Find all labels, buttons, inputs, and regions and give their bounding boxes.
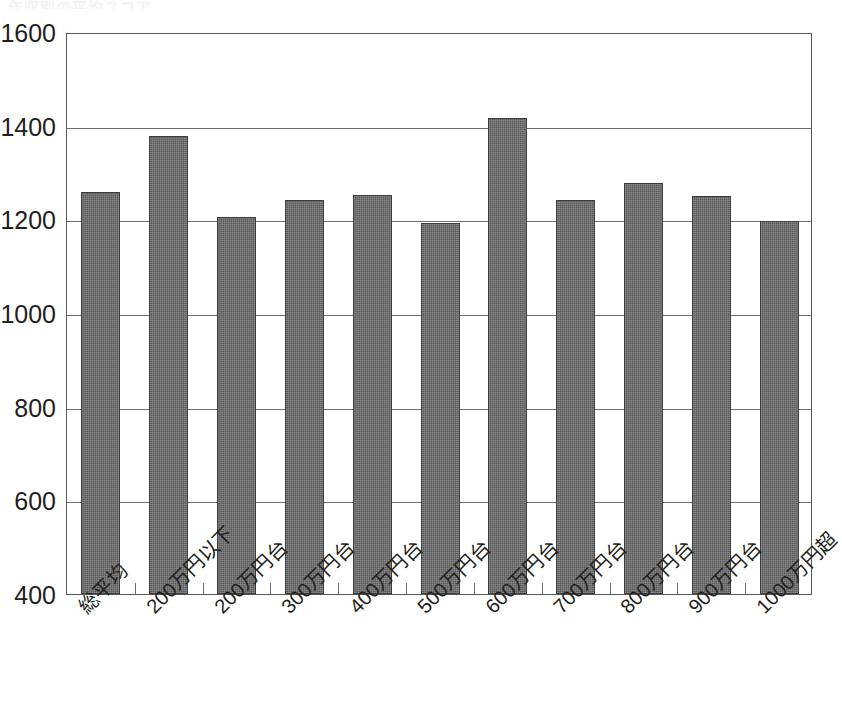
x-axis-tick	[338, 583, 339, 594]
x-axis-tick	[406, 583, 407, 594]
bar	[488, 118, 527, 594]
x-axis-tick	[203, 583, 204, 594]
x-axis-tick	[542, 583, 543, 594]
bar	[624, 183, 663, 594]
bar	[81, 192, 120, 594]
y-axis-tick-label: 1200	[0, 208, 56, 232]
x-axis-tick	[610, 583, 611, 594]
bar	[421, 223, 460, 594]
bar	[149, 136, 188, 594]
gridline	[67, 128, 811, 129]
x-axis-tick	[474, 583, 475, 594]
x-axis-tick	[745, 583, 746, 594]
y-axis-tick-label: 800	[0, 396, 56, 420]
x-axis-tick	[677, 583, 678, 594]
x-axis-tick	[270, 583, 271, 594]
bar	[353, 195, 392, 594]
y-axis-tick-label: 400	[0, 583, 56, 607]
y-axis-tick-label: 1400	[0, 115, 56, 139]
bar	[692, 196, 731, 594]
chart-title-remnant: 年収別の平均スコア	[8, 0, 368, 9]
y-axis-tick-label: 600	[0, 489, 56, 513]
y-axis-tick-label: 1600	[0, 21, 56, 45]
x-axis-tick	[135, 583, 136, 594]
plot-area	[66, 33, 812, 595]
bar	[760, 221, 799, 594]
y-axis-tick-label: 1000	[0, 302, 56, 326]
bar	[556, 200, 595, 594]
bar	[285, 200, 324, 594]
